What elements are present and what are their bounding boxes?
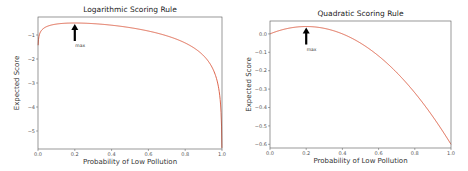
- x-tick-label: 0.2: [71, 151, 79, 157]
- x-tick-label: 1.0: [447, 150, 455, 156]
- data-line: [270, 27, 451, 145]
- max-annotation-label: max: [307, 47, 317, 52]
- x-tick-label: 0.2: [302, 150, 310, 156]
- chart-title: Quadratic Scoring Rule: [317, 9, 403, 18]
- x-tick-label: 0.0: [34, 151, 42, 157]
- y-tick-label: −0.5: [255, 123, 267, 129]
- y-tick-label: −2: [28, 56, 35, 62]
- y-tick-label: −3: [28, 80, 35, 86]
- y-tick-label: −0.3: [255, 86, 267, 92]
- x-axis-label: Probability of Low Pollution: [313, 157, 407, 165]
- x-tick-label: 0.0: [266, 150, 274, 156]
- data-line: [38, 23, 222, 148]
- y-tick-label: 0.0: [259, 31, 267, 37]
- x-tick-label: 0.6: [375, 150, 383, 156]
- y-tick-label: −5: [28, 128, 35, 134]
- y-tick-label: −0.2: [255, 67, 267, 73]
- plot-frame: [270, 21, 451, 148]
- y-axis-label: Expected Score: [13, 56, 21, 111]
- x-tick-label: 0.8: [181, 151, 189, 157]
- x-axis-label: Probability of Low Pollution: [83, 158, 177, 166]
- y-tick-label: −0.1: [255, 49, 267, 55]
- y-axis-label: Expected Score: [245, 57, 253, 112]
- max-arrow-icon: [71, 24, 78, 41]
- y-tick-label: −1: [28, 32, 35, 38]
- chart-canvas: Logarithmic Scoring Rule0.00.20.40.60.81…: [0, 0, 468, 171]
- x-tick-label: 1.0: [218, 151, 226, 157]
- chart-panel-1: Logarithmic Scoring Rule0.00.20.40.60.81…: [13, 5, 226, 166]
- chart-panel-2: Quadratic Scoring Rule0.00.20.40.60.81.0…: [245, 9, 455, 165]
- y-tick-label: −0.6: [255, 141, 267, 147]
- chart-title: Logarithmic Scoring Rule: [83, 5, 177, 14]
- x-tick-label: 0.4: [108, 151, 116, 157]
- x-tick-label: 0.8: [411, 150, 419, 156]
- y-tick-label: −0.4: [255, 104, 267, 110]
- max-arrow-icon: [303, 28, 310, 45]
- x-tick-label: 0.4: [338, 150, 346, 156]
- x-tick-label: 0.6: [144, 151, 152, 157]
- max-annotation-label: max: [75, 43, 85, 48]
- plot-frame: [38, 17, 222, 149]
- y-tick-label: −4: [28, 104, 35, 110]
